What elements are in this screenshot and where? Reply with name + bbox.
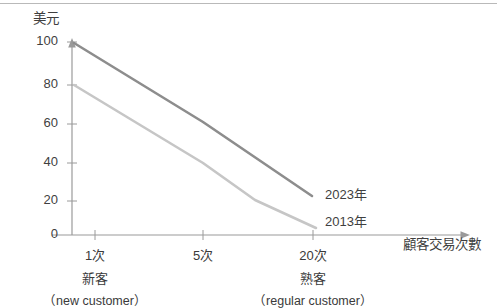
series-line-2023 [74,43,312,196]
series-line-2013 [74,85,316,228]
y-tick-label-60: 60 [24,116,58,131]
x-tick-count-20: 20次 [253,245,373,264]
series-label-2013: 2013年 [325,215,367,230]
x-tick-count-1: 1次 [43,245,147,264]
y-tick-label-80: 80 [24,77,58,92]
x-tick-count-5: 5次 [193,245,213,264]
x-tick-segment-1: 新客 [43,268,147,287]
x-tick-group-5: 5次 [193,245,213,264]
y-tick-label-100: 100 [24,34,58,49]
x-tick-segment-20: 熟客 [253,268,373,287]
x-tick-group-20: 20次 熟客 （regular customer） [253,245,373,308]
x-tick-english-20: （regular customer） [253,290,373,308]
chart-figure: 美元 100 80 60 40 20 0 1次 新客 （new customer… [0,0,497,308]
y-tick-label-40: 40 [24,155,58,170]
x-tick-group-1: 1次 新客 （new customer） [43,245,147,308]
x-axis-title: 顧客交易次數 [403,237,481,253]
y-axis-title: 美元 [33,11,59,27]
y-tick-label-0: 0 [24,227,58,242]
x-tick-english-1: （new customer） [43,290,147,308]
series-label-2023: 2023年 [325,188,367,203]
y-tick-label-20: 20 [24,193,58,208]
